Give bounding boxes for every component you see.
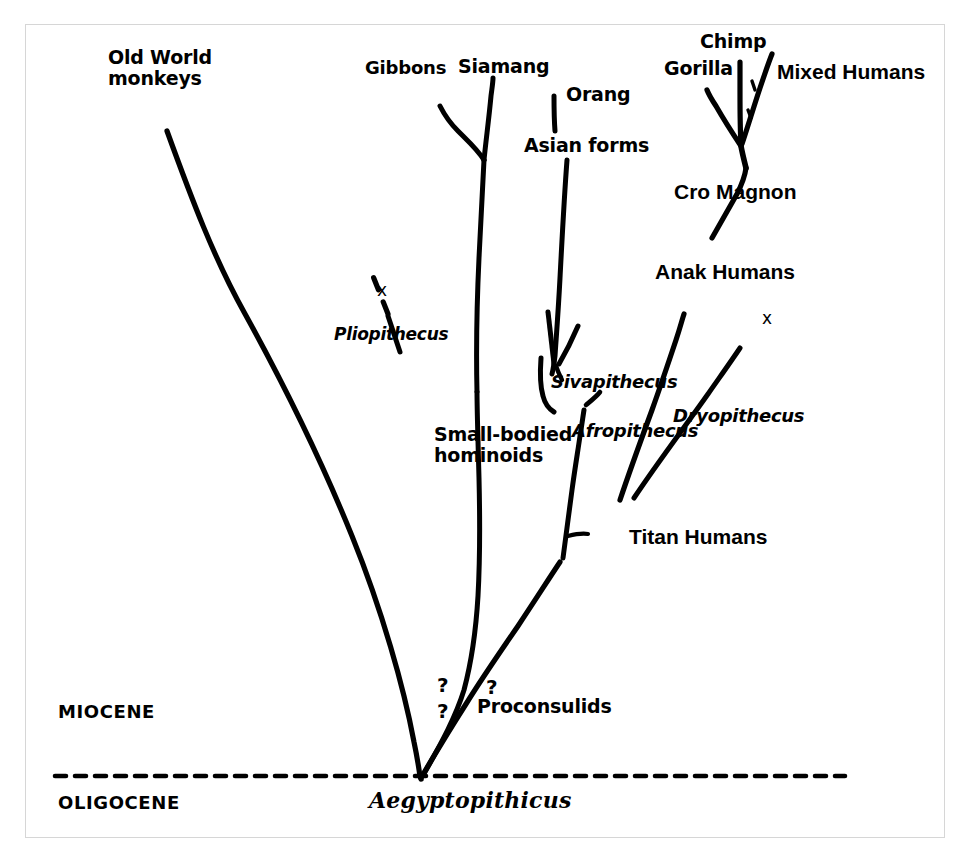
branch-siamang xyxy=(484,78,493,160)
question-mark-icon-1: ? xyxy=(437,674,449,696)
branch-mixed-humans-tick-1 xyxy=(752,81,755,90)
label-gorilla: Gorilla xyxy=(664,58,733,79)
diagram-canvas: Old World monkeys Gibbons Siamang Orang … xyxy=(0,0,972,860)
branch-radiation-stem xyxy=(741,146,746,168)
x-extinction-icon-pliopithecus: x xyxy=(377,281,387,300)
label-siamang: Siamang xyxy=(458,56,549,77)
epoch-label-oligocene: OLIGOCENE xyxy=(58,793,180,813)
label-orang: Orang xyxy=(566,84,630,105)
branch-mixed-humans xyxy=(742,54,772,144)
label-titan-humans: Titan Humans xyxy=(629,525,767,549)
question-mark-icon-2: ? xyxy=(437,700,449,722)
branch-sivapithecus-fork-left xyxy=(548,312,554,364)
branch-asian-forms xyxy=(552,160,567,374)
label-sivapithecus: Sivapithecus xyxy=(551,372,677,392)
branch-titan-humans-stub xyxy=(568,534,588,536)
label-anak-humans: Anak Humans xyxy=(655,260,795,284)
branch-sivapithecus-fork-right xyxy=(559,326,578,364)
label-asian-forms: Asian forms xyxy=(524,135,649,156)
label-gibbons: Gibbons xyxy=(365,58,446,78)
branch-gorilla xyxy=(707,90,741,146)
label-chimp: Chimp xyxy=(700,31,766,52)
epoch-label-miocene: MIOCENE xyxy=(58,702,155,722)
label-proconsulids: Proconsulids xyxy=(477,696,612,717)
label-cro-magnon: Cro Magnon xyxy=(674,180,796,204)
branch-orang xyxy=(554,96,555,131)
x-extinction-icon-dryopithecus: x xyxy=(762,309,772,328)
label-mixed-humans: Mixed Humans xyxy=(777,60,925,84)
question-mark-icon-3: ? xyxy=(486,676,498,698)
branch-gibbons xyxy=(440,106,484,160)
branch-chimp xyxy=(740,62,741,145)
branch-hominoid-gibbon-stem xyxy=(477,160,484,392)
label-aegyptopithicus: Aegyptopithicus xyxy=(369,788,571,813)
branch-old-world-monkeys xyxy=(167,131,420,776)
label-small-bodied-hominoids: Small-bodied hominoids xyxy=(434,424,572,467)
branch-afropithecus-hook xyxy=(586,392,600,405)
label-pliopithecus: Pliopithecus xyxy=(334,325,448,344)
label-dryopithecus: Dryopithecus xyxy=(673,406,804,426)
label-old-world-monkeys: Old World monkeys xyxy=(108,47,212,90)
